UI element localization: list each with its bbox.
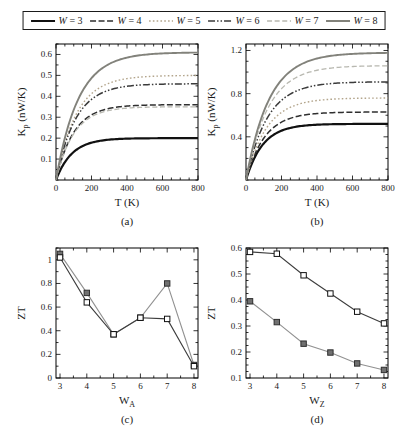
open-square-marker <box>84 300 89 305</box>
caption-b: (b) <box>246 215 388 227</box>
open-square-marker <box>301 273 306 278</box>
y-tick-label: 0.8 <box>231 89 243 99</box>
legend-entry-w6: W = 6 <box>208 15 260 26</box>
x-tick-label: 5 <box>111 381 116 391</box>
x-tick-label: 8 <box>192 381 197 391</box>
filled-square-marker <box>381 367 386 372</box>
subplot-a-chart: 02004006008000.10.20.30.40.50.6T (K)Kp (… <box>16 38 204 214</box>
open-square-marker <box>164 316 169 321</box>
y-tick-label: 0.4 <box>231 132 243 142</box>
x-axis-label: T (K) <box>305 196 330 209</box>
legend-line-sample <box>266 16 291 26</box>
open-square-marker <box>381 321 386 326</box>
curve-w=7 <box>56 107 198 180</box>
y-tick-label: 1 <box>48 255 53 265</box>
legend-entry-w8: W = 8 <box>325 15 377 26</box>
x-tick-label: 3 <box>58 381 63 391</box>
filled-square-marker <box>247 299 252 304</box>
open-square-marker <box>138 315 143 320</box>
open-square-marker <box>328 291 333 296</box>
curve-w=4 <box>246 112 388 180</box>
y-tick-label: 0.1 <box>41 154 52 164</box>
open-square-marker <box>111 332 116 337</box>
x-tick-label: 800 <box>381 183 395 193</box>
y-tick-label: 0 <box>48 373 53 383</box>
y-tick-label: 0.6 <box>231 243 243 253</box>
x-tick-label: 0 <box>244 183 249 193</box>
x-tick-label: 6 <box>328 381 333 391</box>
curve-w=3 <box>246 124 388 180</box>
x-tick-label: 4 <box>275 381 280 391</box>
caption-d: (d) <box>246 413 388 425</box>
x-tick-label: 0 <box>54 183 59 193</box>
open-square-marker <box>354 309 359 314</box>
filled-square-marker <box>328 350 333 355</box>
open-square-marker <box>274 251 279 256</box>
y-tick-label: 0.4 <box>231 295 243 305</box>
x-axis-label: T (K) <box>115 196 140 209</box>
legend-line-sample <box>90 16 115 26</box>
subplot-d: 3456780.10.20.30.40.50.6WZZT <box>206 242 394 412</box>
y-axis-label: ZT <box>15 306 27 320</box>
x-axis-label: WZ <box>309 394 324 409</box>
series-line-filled-squares <box>60 254 194 365</box>
x-tick-label: 4 <box>85 381 90 391</box>
x-tick-label: 6 <box>138 381 143 391</box>
x-tick-label: 3 <box>248 381 253 391</box>
legend-line-sample <box>149 16 174 26</box>
subplot-b-chart: 02004006008000.40.81.2T (K)Kp (nW/K) <box>206 38 394 214</box>
y-tick-label: 1.2 <box>231 45 242 55</box>
y-tick-label: 0.4 <box>41 91 53 101</box>
legend-entry-w5: W = 5 <box>149 15 201 26</box>
curve-w=6 <box>56 84 198 180</box>
curve-w=6 <box>246 82 388 180</box>
legend-entry-label: W = 8 <box>353 15 377 26</box>
x-tick-label: 5 <box>301 381 306 391</box>
legend-box: W = 3W = 4W = 5W = 6W = 7W = 8 <box>23 11 386 30</box>
x-tick-label: 800 <box>191 183 205 193</box>
filled-square-marker <box>274 319 279 324</box>
series-line-open-squares <box>60 257 194 366</box>
subplot-d-chart: 3456780.10.20.30.40.50.6WZZT <box>206 242 394 412</box>
legend-entry-label: W = 3 <box>59 15 83 26</box>
subplot-a: 02004006008000.10.20.30.40.50.6T (K)Kp (… <box>16 38 204 214</box>
series-line-filled-squares <box>250 301 384 370</box>
legend-entry-w7: W = 7 <box>266 15 318 26</box>
y-axis-label: Kp (nW/K) <box>15 87 30 136</box>
figure: W = 3W = 4W = 5W = 6W = 7W = 8 020040060… <box>0 0 408 440</box>
y-tick-label: 0.2 <box>41 349 52 359</box>
curve-w=8 <box>246 53 388 180</box>
x-tick-label: 8 <box>382 381 387 391</box>
x-tick-label: 7 <box>355 381 360 391</box>
legend-entry-label: W = 7 <box>294 15 318 26</box>
y-tick-label: 0.2 <box>231 347 242 357</box>
curve-w=3 <box>56 138 198 180</box>
x-tick-label: 400 <box>120 183 134 193</box>
y-tick-label: 0.6 <box>41 49 53 59</box>
x-tick-label: 200 <box>85 183 99 193</box>
legend-line-sample <box>31 16 56 26</box>
legend-line-sample <box>208 16 233 26</box>
subplot-b: 02004006008000.40.81.2T (K)Kp (nW/K) <box>206 38 394 214</box>
filled-square-marker <box>84 290 89 295</box>
legend-entry-w3: W = 3 <box>31 15 83 26</box>
caption-c: (c) <box>56 413 198 425</box>
x-tick-label: 600 <box>346 183 360 193</box>
legend-entry-label: W = 6 <box>236 15 260 26</box>
y-tick-label: 0.3 <box>231 321 243 331</box>
y-tick-label: 0.5 <box>231 269 243 279</box>
y-tick-label: 0.3 <box>41 112 53 122</box>
legend-entry-label: W = 4 <box>118 15 142 26</box>
y-axis-label: Kp (nW/K) <box>205 87 220 136</box>
subplot-c-chart: 34567800.20.40.60.81WAZT <box>16 242 204 412</box>
filled-square-marker <box>164 281 169 286</box>
subplot-c: 34567800.20.40.60.81WAZT <box>16 242 204 412</box>
x-tick-label: 200 <box>275 183 289 193</box>
x-tick-label: 7 <box>165 381 170 391</box>
y-tick-label: 0.4 <box>41 326 53 336</box>
y-tick-label: 0.2 <box>41 133 52 143</box>
legend-entry-label: W = 5 <box>177 15 201 26</box>
x-tick-label: 400 <box>310 183 324 193</box>
x-axis-label: WA <box>119 394 135 409</box>
caption-a: (a) <box>56 215 198 227</box>
